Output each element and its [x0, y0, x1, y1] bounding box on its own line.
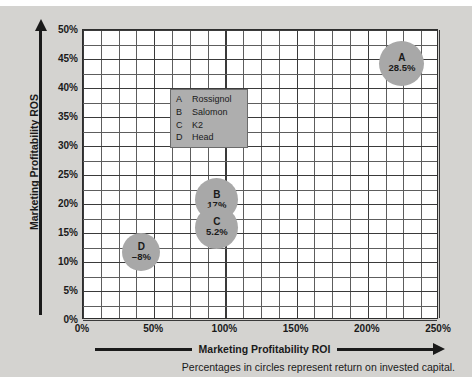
- data-point-value: –8%: [132, 252, 151, 263]
- legend-key: A: [176, 93, 192, 106]
- y-tick-label: 15%: [44, 227, 78, 238]
- gridline-horizontal: [83, 306, 437, 307]
- gridline-horizontal: [83, 103, 437, 104]
- x-axis-arrowhead: [433, 343, 445, 355]
- gridline-vertical: [439, 30, 440, 318]
- chart-legend: ARossignolBSalomonCK2DHead: [170, 89, 248, 148]
- legend-label: K2: [192, 119, 203, 132]
- y-tick-label: 0%: [44, 314, 78, 325]
- y-axis-ticks: 0%5%10%15%20%25%30%35%40%45%50%: [42, 29, 78, 319]
- legend-item-b: BSalomon: [176, 106, 243, 119]
- gridline-horizontal: [83, 161, 437, 162]
- y-tick-label: 50%: [44, 24, 78, 35]
- legend-key: B: [176, 106, 192, 119]
- data-point-a: A28.5%: [379, 41, 424, 86]
- x-tick-label: 200%: [354, 323, 380, 334]
- y-axis-title: Marketing Profitability ROS: [28, 62, 40, 262]
- x-axis-ticks: 0%50%100%150%200%250%: [82, 323, 438, 337]
- legend-key: C: [176, 119, 192, 132]
- x-axis-line-right: [337, 348, 434, 351]
- y-tick-label: 40%: [44, 82, 78, 93]
- y-tick-label: 25%: [44, 169, 78, 180]
- x-tick-label: 250%: [425, 323, 451, 334]
- x-axis-title: Marketing Profitability ROI: [192, 343, 338, 355]
- x-tick-label: 0%: [75, 323, 89, 334]
- gridline-horizontal: [83, 45, 437, 46]
- legend-label: Head: [192, 131, 214, 144]
- y-tick-label: 45%: [44, 53, 78, 64]
- x-axis-arrow-row: Marketing Profitability ROI: [95, 342, 445, 356]
- chart-figure: Marketing Profitability ROS 0%5%10%15%20…: [0, 6, 472, 377]
- gridline-horizontal: [83, 219, 437, 220]
- plot-area: A28.5%B17%C5.2%D–8% ARossignolBSalomonCK…: [82, 29, 438, 319]
- y-tick-label: 10%: [44, 256, 78, 267]
- y-tick-label: 30%: [44, 140, 78, 151]
- legend-item-a: ARossignol: [176, 93, 243, 106]
- legend-item-c: CK2: [176, 119, 243, 132]
- legend-label: Salomon: [192, 106, 228, 119]
- gridline-horizontal: [83, 88, 437, 89]
- legend-item-d: DHead: [176, 131, 243, 144]
- gridline-horizontal: [83, 277, 437, 278]
- x-tick-label: 100%: [212, 323, 238, 334]
- gridline-horizontal: [83, 117, 437, 118]
- x-tick-label: 50%: [143, 323, 163, 334]
- gridline-horizontal: [83, 146, 437, 147]
- y-tick-label: 5%: [44, 285, 78, 296]
- data-point-value: 28.5%: [389, 63, 416, 74]
- legend-key: D: [176, 131, 192, 144]
- data-point-value: 5.2%: [206, 227, 228, 238]
- y-tick-label: 20%: [44, 198, 78, 209]
- gridline-horizontal: [83, 204, 437, 205]
- gridline-horizontal: [83, 30, 437, 31]
- gridline-horizontal: [83, 175, 437, 176]
- gridline-horizontal: [83, 291, 437, 292]
- gridline-horizontal: [83, 132, 437, 133]
- gridline-horizontal: [83, 190, 437, 191]
- gridline-horizontal: [83, 320, 437, 321]
- x-axis-line-left: [95, 348, 192, 351]
- chart-caption: Percentages in circles represent return …: [0, 361, 455, 373]
- data-point-c: C5.2%: [195, 206, 238, 249]
- legend-label: Rossignol: [192, 93, 232, 106]
- y-tick-label: 35%: [44, 111, 78, 122]
- x-tick-label: 150%: [283, 323, 309, 334]
